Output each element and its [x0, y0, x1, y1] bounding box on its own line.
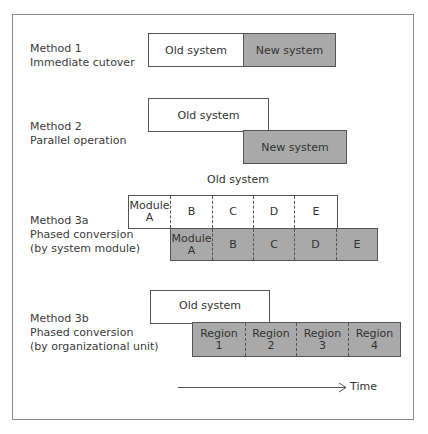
method-1-subtitle: Immediate cutover — [30, 56, 135, 70]
new-module-c: C — [254, 229, 295, 260]
old-module-a: Module A — [129, 196, 171, 228]
method-2-title: Method 2 — [30, 120, 126, 134]
method-3b-title: Method 3b — [30, 312, 159, 326]
method-1-label: Method 1 Immediate cutover — [30, 42, 135, 70]
method-3b-detail: (by organizational unit) — [30, 340, 159, 354]
method-2-old-system: Old system — [148, 98, 269, 132]
method-1-old-system: Old system — [148, 33, 244, 67]
method-2-new-system: New system — [243, 130, 347, 164]
method-2-subtitle: Parallel operation — [30, 134, 126, 148]
region-1: Region 1 — [193, 323, 246, 356]
old-module-c: C — [213, 196, 254, 228]
old-module-b: B — [171, 196, 213, 228]
method-3a-subtitle: Phased conversion — [30, 228, 140, 242]
method-3a-old-modules: Module A B C D E — [128, 195, 338, 229]
method-3a-new-modules: Module A B C D E — [170, 228, 378, 261]
method-1-title: Method 1 — [30, 42, 135, 56]
method-3a-title: Method 3a — [30, 214, 140, 228]
method-1-new-system: New system — [243, 33, 336, 67]
old-module-e: E — [295, 196, 337, 228]
new-module-d: D — [295, 229, 337, 260]
new-module-e: E — [337, 229, 377, 260]
method-3a-old-caption: Old system — [207, 173, 269, 186]
region-3: Region 3 — [297, 323, 349, 356]
method-3b-label: Method 3b Phased conversion (by organiza… — [30, 312, 159, 354]
method-2-label: Method 2 Parallel operation — [30, 120, 126, 148]
method-3b-subtitle: Phased conversion — [30, 326, 159, 340]
time-arrow-line — [178, 387, 346, 388]
time-label: Time — [350, 380, 377, 393]
method-3b-old-system: Old system — [150, 290, 270, 324]
arrowhead-icon — [338, 382, 348, 393]
region-2: Region 2 — [246, 323, 297, 356]
method-3b-new-regions: Region 1 Region 2 Region 3 Region 4 — [192, 322, 401, 357]
new-module-a: Module A — [171, 229, 213, 260]
method-3a-label: Method 3a Phased conversion (by system m… — [30, 214, 140, 256]
region-4: Region 4 — [349, 323, 400, 356]
method-3a-detail: (by system module) — [30, 242, 140, 256]
new-module-b: B — [213, 229, 254, 260]
old-module-d: D — [254, 196, 295, 228]
